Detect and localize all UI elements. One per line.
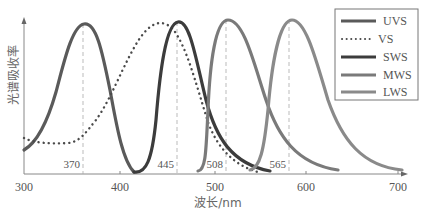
legend: UVS VS SWS MWS LWS bbox=[335, 9, 418, 100]
curve-uvs bbox=[24, 24, 134, 172]
x-tick-label: 400 bbox=[111, 180, 129, 194]
peak-label: 565 bbox=[270, 158, 287, 170]
x-tick-label: 700 bbox=[389, 180, 407, 194]
curve-vs bbox=[24, 23, 258, 172]
x-tick-label: 600 bbox=[297, 180, 315, 194]
x-tick-label: 300 bbox=[15, 180, 33, 194]
peak-label: 508 bbox=[207, 158, 224, 170]
x-axis-title: 波长/nm bbox=[194, 196, 241, 210]
peak-guides bbox=[83, 20, 289, 174]
spectral-absorbance-chart: 光谱吸收率 300 400 500 600 700 波长/nm 370 445 … bbox=[0, 0, 424, 216]
x-tick-labels: 300 400 500 600 700 bbox=[15, 180, 407, 194]
curve-sws bbox=[134, 22, 270, 172]
x-tick-label: 500 bbox=[206, 180, 224, 194]
peak-label: 445 bbox=[158, 158, 175, 170]
legend-label: LWS bbox=[383, 85, 407, 99]
legend-label: VS bbox=[378, 32, 393, 46]
y-axis-arrow-icon bbox=[22, 17, 27, 24]
legend-label: UVS bbox=[383, 14, 407, 28]
peak-label: 370 bbox=[64, 158, 81, 170]
x-axis-arrow-icon bbox=[401, 172, 408, 177]
legend-label: SWS bbox=[383, 50, 408, 64]
y-axis-title: 光谱吸收率 bbox=[6, 45, 21, 105]
legend-label: MWS bbox=[383, 68, 412, 82]
